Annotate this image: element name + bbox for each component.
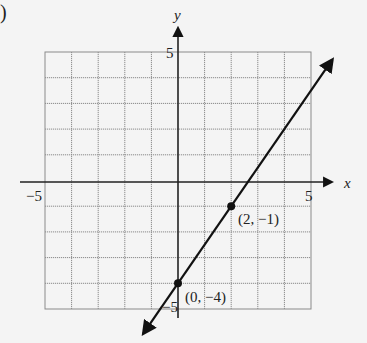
point-label-0-neg4: (0, −4): [185, 290, 226, 305]
data-point: [174, 279, 182, 287]
point-label-2-neg1: (2, −1): [238, 212, 279, 227]
data-point: [227, 202, 235, 210]
x-axis-label: x: [344, 176, 351, 191]
x-tick-5: 5: [305, 189, 313, 204]
line-series: [143, 60, 332, 334]
y-tick-5: 5: [166, 46, 174, 61]
part-label: ): [0, 2, 7, 22]
y-tick-neg5: −5: [162, 300, 178, 315]
y-axis-label: y: [174, 8, 181, 23]
coordinate-plane: [0, 0, 367, 343]
x-tick-neg5: −5: [26, 189, 42, 204]
